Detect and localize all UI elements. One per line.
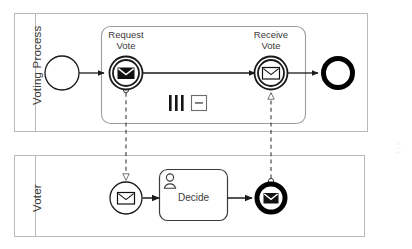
message-start-event[interactable]	[110, 182, 142, 214]
request-vote-label-line2: Vote	[103, 40, 149, 51]
decide-task-label: Decide	[159, 192, 228, 203]
bpmn-diagram-canvas	[0, 0, 412, 249]
envelope-filled-icon	[118, 68, 135, 80]
request-vote-label-line1: Request	[103, 29, 149, 40]
scan-artifact	[395, 143, 401, 153]
envelope-filled-icon	[264, 193, 279, 204]
pool-voting-process-label: Voting Process	[31, 25, 43, 105]
message-end-event[interactable]	[257, 184, 285, 212]
collapsed-subprocess-marker[interactable]	[192, 96, 207, 111]
start-event[interactable]	[45, 56, 79, 90]
pool-voter-label: Voter	[31, 184, 43, 212]
receive-vote-label-line2: Vote	[248, 40, 294, 51]
envelope-outline-icon	[263, 68, 280, 80]
receive-vote-label-line1: Receive	[248, 29, 294, 40]
envelope-outline-icon	[118, 193, 135, 205]
parallel-multi-instance-marker	[169, 95, 184, 111]
receive-vote-event[interactable]	[255, 57, 288, 90]
request-vote-event[interactable]	[110, 57, 143, 90]
end-event[interactable]	[324, 59, 353, 88]
